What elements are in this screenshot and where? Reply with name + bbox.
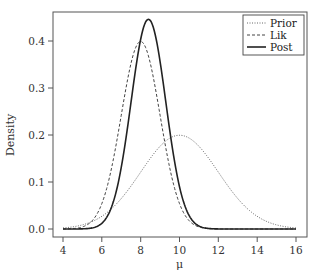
y-axis: 0.0 0.1 0.2 0.3 0.4 Density bbox=[4, 35, 53, 235]
x-tick-label: 6 bbox=[98, 244, 105, 256]
x-tick-label: 14 bbox=[251, 244, 265, 256]
legend-lik-label: Lik bbox=[270, 29, 287, 41]
y-tick-label: 0.1 bbox=[28, 176, 45, 188]
y-tick-label: 0.2 bbox=[28, 129, 45, 141]
x-axis-title: μ bbox=[176, 258, 183, 271]
x-axis: 4 6 8 10 12 14 16 μ bbox=[60, 237, 303, 271]
legend: Prior Lik Post bbox=[243, 15, 304, 55]
x-tick-label: 8 bbox=[137, 244, 144, 256]
prior-curve bbox=[63, 135, 296, 228]
y-axis-title: Density bbox=[4, 113, 17, 156]
y-tick-label: 0.4 bbox=[28, 35, 45, 47]
legend-post-label: Post bbox=[270, 41, 293, 53]
x-tick-label: 12 bbox=[212, 244, 225, 256]
x-tick-label: 16 bbox=[289, 244, 303, 256]
y-tick-label: 0.0 bbox=[28, 223, 45, 235]
x-tick-label: 4 bbox=[60, 244, 67, 256]
y-tick-label: 0.3 bbox=[28, 82, 45, 94]
x-tick-label: 10 bbox=[173, 244, 186, 256]
legend-prior-label: Prior bbox=[270, 17, 298, 29]
density-chart: 0.0 0.1 0.2 0.3 0.4 Density 4 6 8 10 12 … bbox=[0, 0, 320, 279]
